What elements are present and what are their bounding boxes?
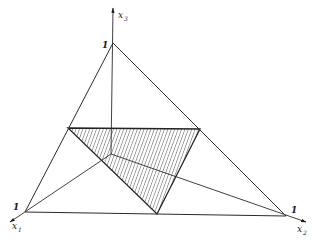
simplex-diagram: 1 1 1 x 3 x 1 x 2 (0, 0, 318, 246)
x1-unit-label: 1 (13, 202, 19, 212)
edge-x3-x1 (25, 43, 113, 212)
x1-axis-label: x 1 (12, 221, 22, 233)
svg-text:x: x (12, 221, 17, 231)
svg-text:x: x (118, 10, 123, 20)
svg-text:3: 3 (124, 15, 128, 22)
svg-text:x: x (297, 224, 302, 234)
svg-text:1: 1 (18, 226, 22, 233)
x2-axis-label: x 2 (297, 224, 307, 236)
svg-text:2: 2 (302, 229, 307, 236)
hatched-region (68, 128, 200, 214)
x3-unit-label: 1 (102, 40, 108, 50)
x2-unit-label: 1 (291, 205, 297, 215)
x3-axis-label: x 3 (118, 10, 128, 22)
